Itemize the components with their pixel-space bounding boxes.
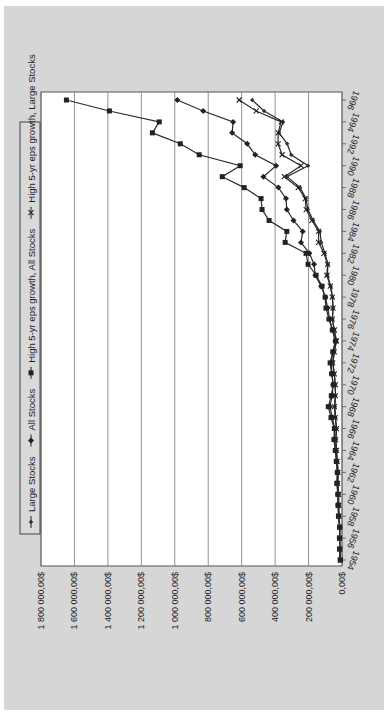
legend-label: High 5-yr eps growth, All Stocks — [26, 228, 37, 362]
data-point — [107, 108, 112, 113]
data-point — [150, 130, 155, 135]
x-tick-label: 1990 — [345, 155, 361, 177]
x-tick-label: 1980 — [345, 265, 361, 287]
data-point — [314, 273, 319, 278]
y-axis-ticks: 0,00$200 000,00$400 000,00$600 000,00$80… — [36, 572, 347, 630]
x-tick-label: 1988 — [345, 177, 361, 199]
x-tick-label: 1956 — [345, 527, 361, 549]
data-point — [334, 481, 339, 486]
legend-label: All Stocks — [26, 389, 37, 431]
x-tick-label: 1966 — [345, 418, 361, 440]
y-tick-label: 800 000,00$ — [203, 572, 213, 622]
data-point — [326, 404, 331, 409]
y-tick-label: 1 400 000,00$ — [103, 572, 113, 630]
x-tick-label: 1996 — [345, 89, 361, 111]
data-point — [220, 174, 225, 179]
data-point — [334, 459, 339, 464]
x-tick-label: 1960 — [345, 484, 361, 506]
legend-label: Large Stocks — [26, 456, 37, 512]
data-point — [283, 240, 288, 245]
data-point — [197, 152, 202, 157]
data-point — [284, 229, 289, 234]
x-tick-label: 1978 — [345, 286, 361, 308]
x-tick-label: 1974 — [345, 330, 361, 352]
y-tick-label: 1 600 000,00$ — [69, 572, 79, 630]
y-tick-label: 1 000 000,00$ — [170, 572, 180, 630]
x-tick-label: 1964 — [345, 440, 361, 462]
chart-page: 0,00$200 000,00$400 000,00$600 000,00$80… — [4, 6, 384, 710]
y-tick-label: 1 200 000,00$ — [136, 572, 146, 630]
x-tick-label: 1976 — [345, 308, 361, 330]
legend: Large StocksAll StocksHigh 5-yr eps grow… — [20, 54, 40, 534]
data-point — [238, 163, 243, 168]
data-point — [306, 262, 311, 267]
data-point — [304, 251, 309, 256]
legend-label: High 5-yr eps growth, Large Stocks — [26, 54, 37, 203]
x-tick-label: 1958 — [345, 506, 361, 528]
data-point — [329, 371, 334, 376]
data-point — [323, 295, 328, 300]
x-tick-label: 1968 — [345, 396, 361, 418]
y-tick-label: 1 800 000,00$ — [36, 572, 46, 630]
data-point — [64, 98, 69, 103]
y-tick-label: 0,00$ — [337, 572, 347, 595]
data-point — [178, 141, 183, 146]
data-point — [157, 119, 162, 124]
x-tick-label: 1962 — [345, 462, 361, 484]
y-tick-label: 200 000,00$ — [304, 572, 314, 622]
x-tick-label: 1972 — [345, 352, 361, 374]
data-point — [29, 370, 34, 375]
x-axis-ticks: 1954195619581960196219641966196819701972… — [342, 89, 362, 571]
y-tick-label: 400 000,00$ — [270, 572, 280, 622]
data-point — [259, 196, 264, 201]
x-tick-label: 1986 — [345, 199, 361, 221]
x-tick-label: 1954 — [345, 549, 361, 571]
x-tick-label: 1994 — [345, 111, 361, 133]
chart: 0,00$200 000,00$400 000,00$600 000,00$80… — [4, 6, 384, 710]
x-tick-label: 1984 — [345, 221, 361, 243]
data-point — [323, 306, 328, 311]
x-tick-label: 1970 — [345, 374, 361, 396]
data-point — [320, 284, 325, 289]
data-point — [267, 218, 272, 223]
x-tick-label: 1982 — [345, 243, 361, 265]
y-tick-label: 600 000,00$ — [237, 572, 247, 622]
x-tick-label: 1992 — [345, 133, 361, 155]
data-point — [242, 185, 247, 190]
data-point — [260, 207, 265, 212]
